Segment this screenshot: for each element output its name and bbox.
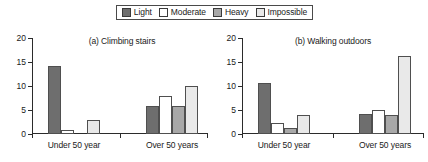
bar-moderate-under50 xyxy=(271,123,284,134)
legend-entry-heavy: Heavy xyxy=(213,8,249,17)
legend-label: Moderate xyxy=(171,8,206,17)
bar-impossible-under50 xyxy=(297,115,310,134)
x-group-separator-tick xyxy=(120,134,121,138)
bar-impossible-under50 xyxy=(87,120,100,134)
panel-b-plot: 05101520 xyxy=(242,38,424,134)
x-axis-end-tick xyxy=(423,134,424,138)
y-tick-label: 15 xyxy=(227,57,236,67)
y-tick-label: 5 xyxy=(231,105,236,115)
panel-a-bars xyxy=(32,38,208,134)
bar-light-under50 xyxy=(48,66,61,134)
y-tick-mark xyxy=(238,38,242,39)
panel-a-x-labels: Under 50 yearOver 50 years xyxy=(32,140,208,152)
y-tick-label: 10 xyxy=(227,81,236,91)
chart-panel-b: (b) Walking outdoors 05101520 Under 50 y… xyxy=(214,30,428,162)
chart-legend: LightModerateHeavyImpossible xyxy=(116,5,313,20)
y-tick-label: 15 xyxy=(17,57,26,67)
bar-light-under50 xyxy=(258,83,271,134)
y-tick-label: 5 xyxy=(21,105,26,115)
x-axis-label: Under 50 year xyxy=(48,140,101,150)
y-tick-label: 20 xyxy=(17,33,26,43)
bar-moderate-over50 xyxy=(159,96,172,134)
legend-swatch-heavy xyxy=(213,8,222,17)
legend-label: Impossible xyxy=(268,8,308,17)
x-axis-label: Over 50 years xyxy=(359,140,411,150)
y-tick-label: 20 xyxy=(227,33,236,43)
y-tick-mark xyxy=(28,86,32,87)
bar-impossible-over50 xyxy=(398,56,411,134)
y-tick-label: 0 xyxy=(231,129,236,139)
bar-light-over50 xyxy=(359,114,372,134)
legend-swatch-impossible xyxy=(256,8,265,17)
bar-impossible-over50 xyxy=(185,86,198,134)
legend-entry-moderate: Moderate xyxy=(159,8,206,17)
bar-moderate-over50 xyxy=(372,110,385,134)
bar-moderate-under50 xyxy=(61,130,74,134)
x-axis-end-tick xyxy=(207,134,208,138)
legend-entry-light: Light xyxy=(122,8,152,17)
legend-swatch-moderate xyxy=(159,8,168,17)
y-tick-mark xyxy=(238,110,242,111)
x-axis-label: Over 50 years xyxy=(146,140,198,150)
x-group-separator-tick xyxy=(333,134,334,138)
y-tick-mark xyxy=(28,110,32,111)
panel-b-x-labels: Under 50 yearOver 50 years xyxy=(242,140,424,152)
y-tick-mark xyxy=(238,62,242,63)
bar-heavy-over50 xyxy=(172,106,185,134)
legend-label: Light xyxy=(134,8,152,17)
y-tick-mark xyxy=(28,38,32,39)
panel-a-plot: 05101520 xyxy=(32,38,208,134)
y-tick-mark xyxy=(238,86,242,87)
y-tick-label: 0 xyxy=(21,129,26,139)
y-tick-label: 10 xyxy=(17,81,26,91)
bar-light-over50 xyxy=(146,106,159,134)
legend-swatch-light xyxy=(122,8,131,17)
x-axis-origin-tick xyxy=(32,134,33,138)
bar-heavy-under50 xyxy=(284,128,297,134)
legend-entry-impossible: Impossible xyxy=(256,8,308,17)
panel-b-bars xyxy=(242,38,424,134)
bar-heavy-over50 xyxy=(385,115,398,134)
x-axis-origin-tick xyxy=(242,134,243,138)
legend-label: Heavy xyxy=(225,8,249,17)
chart-panel-a: (a) Climbing stairs 05101520 Under 50 ye… xyxy=(0,30,214,162)
y-tick-mark xyxy=(28,62,32,63)
x-axis-label: Under 50 year xyxy=(258,140,311,150)
